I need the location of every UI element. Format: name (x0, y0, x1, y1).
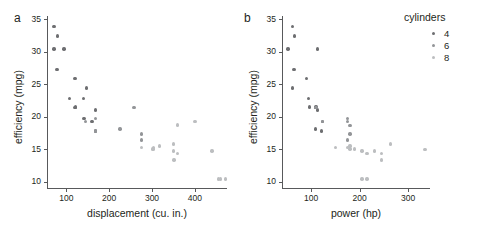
data-point (140, 138, 143, 141)
x-tick (195, 189, 196, 192)
data-point (94, 129, 97, 132)
data-point (140, 146, 143, 149)
data-point (305, 77, 308, 80)
data-point (140, 132, 143, 135)
x-axis-line (47, 188, 227, 189)
y-axis-line (282, 16, 283, 188)
data-point (292, 68, 295, 71)
data-point (62, 47, 65, 50)
data-point (348, 147, 351, 150)
data-point (348, 132, 351, 135)
y-tick (279, 117, 282, 118)
legend-title: cylinders (404, 12, 490, 23)
x-tick-label: 300 (137, 194, 167, 203)
data-point (365, 177, 368, 180)
data-point (353, 147, 356, 150)
data-point (152, 147, 155, 150)
panel-a: a 101520253035100200300400displacement (… (0, 0, 240, 238)
figure-container: a 101520253035100200300400displacement (… (0, 0, 495, 238)
data-point (85, 86, 88, 89)
data-point (348, 124, 351, 127)
data-point (360, 149, 363, 152)
legend-item-8[interactable]: 8 (404, 52, 490, 64)
data-point (172, 142, 175, 145)
y-tick (279, 182, 282, 183)
data-point (365, 152, 368, 155)
x-tick-label: 100 (51, 194, 81, 203)
x-tick (360, 189, 361, 192)
y-tick-label: 15 (252, 145, 276, 154)
data-point (94, 117, 97, 120)
y-tick (279, 84, 282, 85)
data-point (52, 25, 55, 28)
data-point (68, 97, 71, 100)
data-point (348, 144, 351, 147)
data-point (321, 120, 324, 123)
legend-item-label: 6 (444, 40, 449, 52)
y-tick (279, 149, 282, 150)
data-point (291, 86, 294, 89)
x-tick-label: 200 (345, 194, 375, 203)
data-point (176, 123, 179, 126)
data-point (346, 120, 349, 123)
x-tick-label: 200 (94, 194, 124, 203)
x-tick (109, 189, 110, 192)
x-tick-label: 300 (393, 194, 423, 203)
data-point (360, 177, 363, 180)
data-point (307, 97, 310, 100)
data-point (286, 47, 289, 50)
x-axis-title: power (hp) (262, 208, 450, 219)
y-tick (44, 19, 47, 20)
x-axis-title: displacement (cu. in.) (27, 208, 247, 219)
data-point (380, 158, 383, 161)
data-point (118, 127, 121, 130)
data-point (172, 158, 175, 161)
data-point (224, 177, 227, 180)
legend-item-6[interactable]: 6 (404, 40, 490, 52)
data-point (308, 105, 311, 108)
legend-swatch-icon (432, 44, 435, 47)
y-axis-title: efficiency (mpg) (248, 70, 259, 144)
data-point (210, 149, 213, 152)
data-point (217, 177, 220, 180)
data-point (346, 138, 349, 141)
data-point (334, 146, 337, 149)
y-tick (44, 182, 47, 183)
y-axis-line (47, 16, 48, 188)
y-tick (279, 19, 282, 20)
x-tick (311, 189, 312, 192)
data-point (389, 142, 392, 145)
data-point (423, 148, 426, 151)
data-point (320, 129, 323, 132)
y-tick (44, 84, 47, 85)
data-point (74, 105, 77, 108)
y-tick-label: 30 (252, 47, 276, 56)
x-tick (408, 189, 409, 192)
data-point (82, 97, 85, 100)
x-tick (152, 189, 153, 192)
legend-item-label: 8 (444, 52, 449, 64)
y-tick-label: 35 (17, 15, 41, 24)
data-point (176, 152, 179, 155)
legend-swatch-icon (432, 32, 435, 35)
data-point (314, 106, 317, 109)
data-point (193, 120, 196, 123)
panel-label-b: b (244, 12, 251, 24)
y-tick-label: 10 (252, 177, 276, 186)
y-tick (44, 117, 47, 118)
y-tick-label: 30 (17, 47, 41, 56)
data-point (158, 144, 161, 147)
y-tick (279, 52, 282, 53)
legend-item-label: 4 (444, 28, 449, 40)
data-point (52, 47, 55, 50)
x-tick (66, 189, 67, 192)
data-point (56, 34, 59, 37)
data-point (380, 152, 383, 155)
y-tick (44, 149, 47, 150)
legend-item-4[interactable]: 4 (404, 28, 490, 40)
y-tick (44, 52, 47, 53)
data-point (94, 108, 97, 111)
data-point (373, 149, 376, 152)
y-tick-label: 15 (17, 145, 41, 154)
data-point (172, 149, 175, 152)
